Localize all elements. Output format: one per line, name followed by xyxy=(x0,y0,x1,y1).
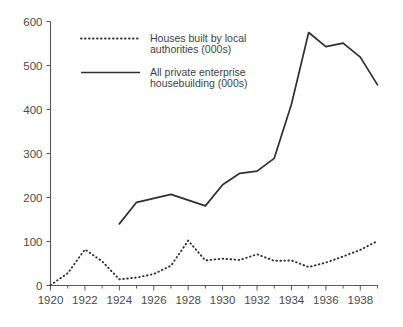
x-tick-label-1934: 1934 xyxy=(279,294,305,306)
y-axis-ticks xyxy=(47,22,51,286)
legend-label-local-authorities-line2: authorities (000s) xyxy=(150,43,231,55)
x-tick-label-1924: 1924 xyxy=(107,294,133,306)
x-tick-label-1928: 1928 xyxy=(175,294,201,306)
chart-canvas: 0100200300400500600 19201922192419261928… xyxy=(0,0,403,327)
y-tick-label-100: 100 xyxy=(23,236,42,248)
y-tick-label-400: 400 xyxy=(23,104,42,116)
x-tick-label-1936: 1936 xyxy=(313,294,339,306)
y-tick-label-600: 600 xyxy=(23,16,42,28)
y-tick-label-0: 0 xyxy=(36,280,42,292)
x-axis-tick-labels: 1920192219241926192819301932193419361938 xyxy=(38,294,373,306)
x-tick-label-1922: 1922 xyxy=(72,294,98,306)
chart-legend: Houses built by local authorities (000s)… xyxy=(81,32,247,89)
x-tick-label-1938: 1938 xyxy=(347,294,373,306)
axis-group xyxy=(51,22,378,286)
line-chart-housebuilding: 0100200300400500600 19201922192419261928… xyxy=(0,0,403,327)
y-tick-label-300: 300 xyxy=(23,148,42,160)
axis-lines xyxy=(51,22,378,286)
y-axis-tick-labels: 0100200300400500600 xyxy=(23,16,42,292)
series-line-local-authorities xyxy=(51,241,378,285)
x-tick-label-1932: 1932 xyxy=(244,294,270,306)
x-tick-label-1930: 1930 xyxy=(210,294,236,306)
legend-label-private-enterprise-line2: housebuilding (000s) xyxy=(150,77,247,89)
x-tick-label-1926: 1926 xyxy=(141,294,167,306)
y-tick-label-500: 500 xyxy=(23,60,42,72)
y-tick-label-200: 200 xyxy=(23,192,42,204)
x-tick-label-1920: 1920 xyxy=(38,294,64,306)
series-line-private-enterprise xyxy=(119,33,377,224)
